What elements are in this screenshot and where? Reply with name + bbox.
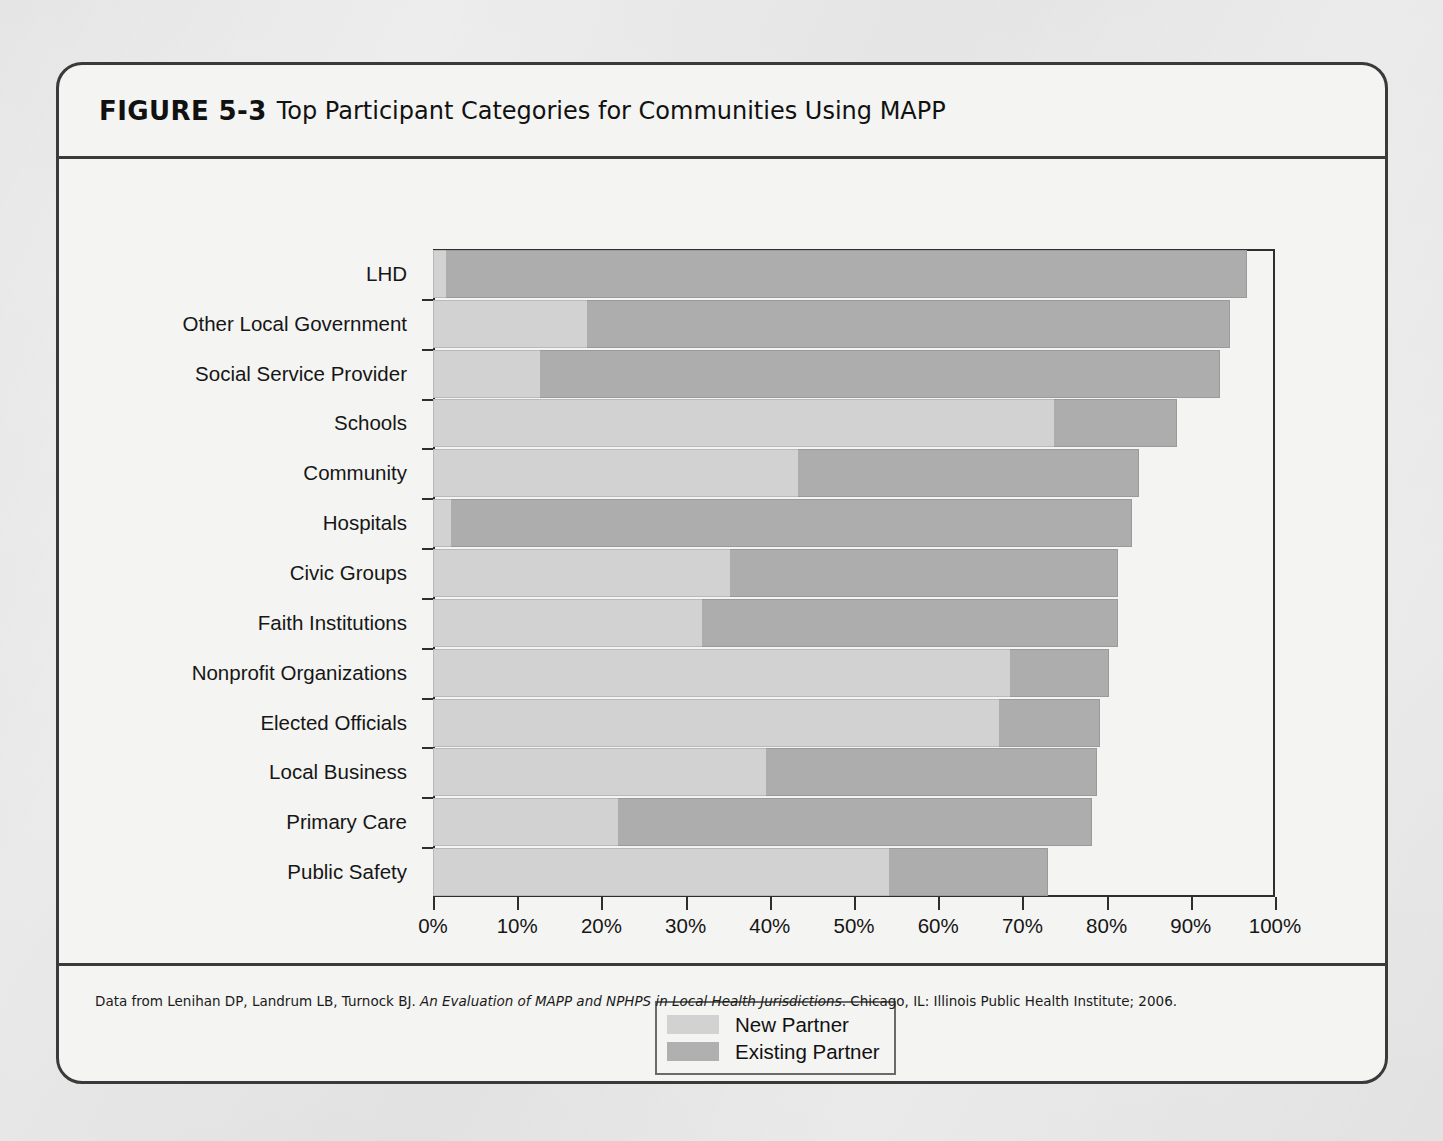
- y-axis-tick: [422, 698, 433, 700]
- y-axis-label: LHD: [366, 250, 407, 298]
- x-axis: 0%10%20%30%40%50%60%70%80%90%100%: [433, 897, 1275, 967]
- bar-segment-existing-partner: [587, 300, 1229, 348]
- y-axis-label: Elected Officials: [260, 699, 407, 747]
- y-axis-label: Faith Institutions: [258, 599, 407, 647]
- x-axis-label: 100%: [1249, 914, 1301, 938]
- x-axis-label: 0%: [418, 914, 448, 938]
- bar-segment-existing-partner: [999, 699, 1100, 747]
- bar-segment-new-partner: [433, 250, 446, 298]
- x-axis-tick: [938, 897, 940, 910]
- bar-segment-new-partner: [433, 499, 451, 547]
- x-axis-tick: [601, 897, 603, 910]
- y-axis-label: Local Business: [269, 748, 407, 796]
- bar-segment-new-partner: [433, 599, 702, 647]
- x-axis-label: 70%: [1002, 914, 1043, 938]
- x-axis-label: 90%: [1170, 914, 1211, 938]
- bar-segment-existing-partner: [730, 549, 1118, 597]
- bar-segment-new-partner: [433, 848, 889, 896]
- y-axis-label: Schools: [334, 399, 407, 447]
- x-axis-label: 40%: [749, 914, 790, 938]
- bar-faith-institutions: [433, 599, 1118, 647]
- y-axis-label: Hospitals: [323, 499, 407, 547]
- bar-segment-existing-partner: [1010, 649, 1109, 697]
- y-axis-tick: [422, 747, 433, 749]
- x-axis-label: 80%: [1086, 914, 1127, 938]
- x-axis-tick: [1022, 897, 1024, 910]
- y-axis-tick: [422, 349, 433, 351]
- figure-header: FIGURE 5-3 Top Participant Categories fo…: [59, 65, 1385, 159]
- bar-civic-groups: [433, 549, 1118, 597]
- bar-segment-existing-partner: [1054, 399, 1177, 447]
- figure-footer: Data from Lenihan DP, Landrum LB, Turnoc…: [59, 963, 1385, 1081]
- y-axis-label: Community: [303, 449, 407, 497]
- x-axis-tick: [854, 897, 856, 910]
- x-axis-tick: [770, 897, 772, 910]
- caption-suffix: . Chicago, IL: Illinois Public Health In…: [842, 993, 1177, 1009]
- x-axis-tick: [1191, 897, 1193, 910]
- bar-segment-new-partner: [433, 699, 999, 747]
- bar-segment-new-partner: [433, 399, 1054, 447]
- bar-social-service-provider: [433, 350, 1220, 398]
- y-axis-labels: LHDOther Local GovernmentSocial Service …: [59, 249, 421, 897]
- y-axis-label: Primary Care: [286, 798, 407, 846]
- bar-primary-care: [433, 798, 1092, 846]
- bar-segment-existing-partner: [766, 748, 1098, 796]
- x-axis-tick: [1275, 897, 1277, 910]
- x-axis-label: 10%: [497, 914, 538, 938]
- bar-segment-existing-partner: [702, 599, 1117, 647]
- bar-other-local-government: [433, 300, 1230, 348]
- bar-elected-officials: [433, 699, 1100, 747]
- chart-region: LHDOther Local GovernmentSocial Service …: [59, 159, 1385, 963]
- bar-community: [433, 449, 1139, 497]
- y-axis-label: Other Local Government: [183, 300, 407, 348]
- figure-caption: Data from Lenihan DP, Landrum LB, Turnoc…: [95, 992, 1351, 1010]
- bar-segment-new-partner: [433, 300, 587, 348]
- y-axis-tick: [422, 399, 433, 401]
- y-axis-tick: [422, 498, 433, 500]
- x-axis-label: 30%: [665, 914, 706, 938]
- bar-local-business: [433, 748, 1097, 796]
- x-axis-label: 60%: [918, 914, 959, 938]
- bar-segment-new-partner: [433, 748, 766, 796]
- y-axis-tick: [422, 847, 433, 849]
- x-axis-tick: [686, 897, 688, 910]
- y-axis-label: Public Safety: [287, 848, 407, 896]
- bar-segment-new-partner: [433, 449, 798, 497]
- bar-segment-existing-partner: [798, 449, 1140, 497]
- y-axis-label: Social Service Provider: [195, 350, 407, 398]
- x-axis-tick: [1107, 897, 1109, 910]
- bar-public-safety: [433, 848, 1048, 896]
- y-axis-tick: [422, 299, 433, 301]
- bar-hospitals: [433, 499, 1132, 547]
- caption-source-title: An Evaluation of MAPP and NPHPS in Local…: [420, 993, 842, 1009]
- bar-segment-new-partner: [433, 649, 1010, 697]
- y-axis-tick: [422, 598, 433, 600]
- x-axis-label: 50%: [833, 914, 874, 938]
- bar-segment-existing-partner: [540, 350, 1220, 398]
- figure-container: FIGURE 5-3 Top Participant Categories fo…: [56, 62, 1388, 1084]
- bar-segment-existing-partner: [889, 848, 1048, 896]
- bar-lhd: [433, 250, 1247, 298]
- y-axis-label: Civic Groups: [290, 549, 407, 597]
- x-axis-tick: [433, 897, 435, 910]
- figure-title: Top Participant Categories for Communiti…: [277, 97, 946, 125]
- caption-prefix: Data from Lenihan DP, Landrum LB, Turnoc…: [95, 993, 420, 1009]
- x-axis-tick: [517, 897, 519, 910]
- y-axis-tick: [422, 797, 433, 799]
- bar-schools: [433, 399, 1177, 447]
- bars-layer: [433, 249, 1275, 897]
- bar-segment-new-partner: [433, 549, 730, 597]
- bar-segment-new-partner: [433, 350, 540, 398]
- y-axis-tick: [422, 648, 433, 650]
- bar-segment-new-partner: [433, 798, 618, 846]
- figure-number: FIGURE 5-3: [99, 96, 267, 126]
- x-axis-label: 20%: [581, 914, 622, 938]
- bar-segment-existing-partner: [446, 250, 1248, 298]
- bar-segment-existing-partner: [618, 798, 1092, 846]
- bar-segment-existing-partner: [451, 499, 1132, 547]
- y-axis-tick: [422, 548, 433, 550]
- y-axis-label: Nonprofit Organizations: [192, 649, 407, 697]
- y-axis-tick: [422, 448, 433, 450]
- bar-nonprofit-organizations: [433, 649, 1109, 697]
